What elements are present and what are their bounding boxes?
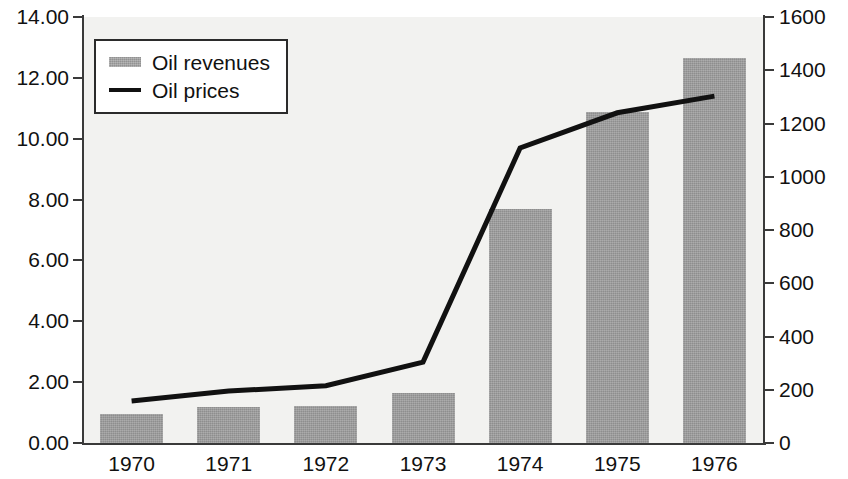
right-tick-200: [765, 389, 774, 391]
legend-label-oil-revenues: Oil revenues: [152, 52, 270, 73]
left-tick-label-10.00: 10.00: [16, 128, 69, 149]
left-tick-6.00: [73, 259, 82, 261]
left-axis-line: [82, 15, 84, 445]
right-tick-label-200: 200: [779, 379, 814, 400]
left-tick-label-0.00: 0.00: [28, 432, 69, 453]
x-tick-label-1973: 1973: [374, 452, 471, 476]
right-tick-600: [765, 282, 774, 284]
right-tick-label-0: 0: [779, 432, 791, 453]
chart-legend: Oil revenues Oil prices: [94, 39, 288, 114]
left-tick-label-4.00: 4.00: [28, 310, 69, 331]
bar-swatch-icon: [109, 57, 141, 67]
legend-item-oil-prices: Oil prices: [109, 76, 270, 104]
right-tick-label-1400: 1400: [779, 59, 826, 80]
left-tick-label-2.00: 2.00: [28, 371, 69, 392]
right-tick-1200: [765, 123, 774, 125]
left-tick-4.00: [73, 320, 82, 322]
x-tick-label-1974: 1974: [472, 452, 569, 476]
oil-revenues-prices-chart: 0.002.004.006.008.0010.0012.0014.00 0200…: [0, 0, 848, 479]
right-tick-800: [765, 229, 774, 231]
left-tick-0.00: [73, 442, 82, 444]
x-tick-label-1971: 1971: [180, 452, 277, 476]
x-tick-label-1976: 1976: [666, 452, 763, 476]
left-tick-14.00: [73, 16, 82, 18]
right-tick-label-400: 400: [779, 326, 814, 347]
x-tick-label-1975: 1975: [569, 452, 666, 476]
right-tick-label-1600: 1600: [779, 6, 826, 27]
left-tick-12.00: [73, 77, 82, 79]
left-tick-label-8.00: 8.00: [28, 189, 69, 210]
left-tick-label-6.00: 6.00: [28, 249, 69, 270]
x-tick-label-1970: 1970: [83, 452, 180, 476]
left-tick-8.00: [73, 199, 82, 201]
line-swatch-icon: [109, 88, 141, 92]
legend-item-oil-revenues: Oil revenues: [109, 48, 270, 76]
x-tick-label-1972: 1972: [277, 452, 374, 476]
left-tick-label-12.00: 12.00: [16, 67, 69, 88]
left-tick-2.00: [73, 381, 82, 383]
right-tick-1600: [765, 16, 774, 18]
price-line-path: [132, 96, 715, 401]
right-tick-label-600: 600: [779, 272, 814, 293]
right-tick-0: [765, 442, 774, 444]
right-tick-label-800: 800: [779, 219, 814, 240]
right-tick-400: [765, 336, 774, 338]
right-tick-1400: [765, 69, 774, 71]
left-tick-label-14.00: 14.00: [16, 6, 69, 27]
bottom-axis-line: [82, 443, 766, 445]
right-tick-label-1000: 1000: [779, 166, 826, 187]
right-tick-1000: [765, 176, 774, 178]
right-tick-label-1200: 1200: [779, 113, 826, 134]
left-tick-10.00: [73, 138, 82, 140]
legend-label-oil-prices: Oil prices: [152, 80, 240, 101]
